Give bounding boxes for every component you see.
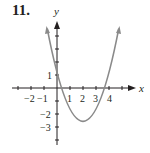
x-tick-label: 1: [67, 93, 72, 104]
x-tick-label: 3: [93, 93, 98, 104]
x-tick-label: 2: [80, 93, 85, 104]
y-tick-label: 1: [47, 70, 52, 81]
parabola-curve: [47, 29, 119, 122]
x-tick-label: −1: [37, 93, 48, 104]
y-tick-label: −3: [40, 122, 51, 133]
curve-right-arrow-icon: [116, 26, 121, 34]
y-axis-arrow-icon: [54, 21, 60, 29]
x-axis-arrow-icon: [128, 85, 136, 91]
curve-left-arrow-icon: [45, 26, 50, 34]
y-tick-label: −2: [40, 109, 51, 120]
y-axis-label: y: [53, 5, 59, 17]
y-axis: [54, 21, 60, 145]
x-tick-label: −2: [24, 93, 35, 104]
x-tick-label: 4: [107, 93, 112, 104]
x-axis: [12, 85, 136, 91]
parabola-chart: y x −2 −1 1 2 3 4 1 −2 −3: [0, 0, 150, 153]
x-axis-label: x: [138, 82, 144, 94]
